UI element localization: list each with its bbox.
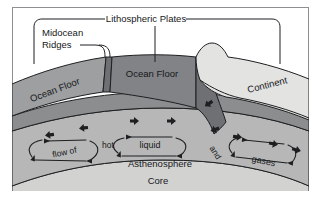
- core-label: Core: [148, 175, 169, 186]
- lithospheric-plates-figure: Ocean Floor Ocean Floor Continent flow o…: [0, 0, 321, 200]
- hot-label: hot: [102, 140, 114, 150]
- asthenosphere-label: Asthenosphere: [128, 158, 192, 169]
- ocean-floor-center-label: Ocean Floor: [126, 68, 178, 79]
- midocean-label-line2: Ridges: [42, 39, 72, 50]
- lithospheric-plates-title: Lithospheric Plates: [106, 13, 187, 24]
- midocean-label-line1: Midocean: [42, 27, 83, 38]
- liquid-label: liquid: [139, 140, 160, 150]
- diagram-canvas: Ocean Floor Ocean Floor Continent flow o…: [0, 0, 321, 200]
